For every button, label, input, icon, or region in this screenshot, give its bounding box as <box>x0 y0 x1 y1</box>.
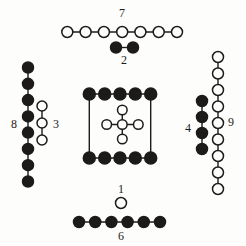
filled-dot-four-right <box>197 112 208 123</box>
filled-dot-eight-left <box>23 111 34 122</box>
hollow-dot-one-bottom <box>116 198 127 209</box>
hollow-dot-nine-right <box>213 68 224 79</box>
hollow-dot-seven-top <box>117 27 128 38</box>
hollow-dot-seven-top <box>153 27 164 38</box>
hollow-dot-five-center-cross <box>118 105 128 115</box>
filled-dot-two-top <box>128 42 139 53</box>
group-six-bottom: 6 <box>74 217 166 244</box>
number-label-two-top: 2 <box>121 53 127 67</box>
filled-dot-ten-center-square <box>99 152 111 164</box>
hetu-svg: 72834916 <box>0 0 246 246</box>
hollow-dot-seven-top <box>172 27 183 38</box>
hollow-dot-five-center-cross <box>118 120 128 130</box>
number-label-four-right: 4 <box>185 121 191 135</box>
group-three-left: 3 <box>37 101 59 145</box>
filled-dot-ten-center-square <box>114 88 126 100</box>
hollow-dot-nine-right <box>213 101 224 112</box>
hollow-dot-five-center-cross <box>102 120 112 130</box>
filled-dot-eight-left <box>23 127 34 138</box>
filled-dot-ten-center-square <box>145 152 157 164</box>
hollow-dot-three-left <box>37 118 47 128</box>
filled-dot-ten-center-square <box>145 88 157 100</box>
filled-dot-ten-center-square <box>83 152 95 164</box>
hollow-dot-nine-right <box>213 85 224 96</box>
filled-dot-ten-center-square <box>83 88 95 100</box>
group-two-top: 2 <box>111 42 139 67</box>
hollow-dot-five-center-cross <box>134 120 144 130</box>
hollow-dot-three-left <box>37 101 47 111</box>
hollow-dot-seven-top <box>62 27 73 38</box>
filled-dot-four-right <box>197 128 208 139</box>
filled-dot-ten-center-square <box>114 152 126 164</box>
filled-dot-two-top <box>111 42 122 53</box>
number-label-six-bottom: 6 <box>118 229 124 243</box>
filled-dot-six-bottom <box>106 217 117 228</box>
filled-dot-six-bottom <box>122 217 133 228</box>
filled-dot-six-bottom <box>90 217 101 228</box>
hollow-dot-five-center-cross <box>118 134 128 144</box>
hollow-dot-nine-right <box>213 184 224 195</box>
hollow-dot-nine-right <box>213 167 224 178</box>
filled-dot-six-bottom <box>155 217 166 228</box>
filled-dot-six-bottom <box>138 217 149 228</box>
filled-dot-six-bottom <box>74 217 85 228</box>
filled-dot-eight-left <box>23 176 34 187</box>
hollow-dot-seven-top <box>98 27 109 38</box>
hollow-dot-nine-right <box>213 118 224 129</box>
filled-dot-eight-left <box>23 95 34 106</box>
filled-dot-eight-left <box>23 160 34 171</box>
filled-dot-eight-left <box>23 143 34 154</box>
group-four-right: 4 <box>185 96 208 155</box>
hollow-dot-seven-top <box>80 27 91 38</box>
hollow-dot-three-left <box>37 135 47 145</box>
group-nine-right: 9 <box>213 52 235 195</box>
group-five-center-cross <box>102 105 143 144</box>
number-label-three-left: 3 <box>53 117 59 131</box>
filled-dot-ten-center-square <box>129 88 141 100</box>
filled-dot-eight-left <box>23 62 34 73</box>
number-label-one-bottom: 1 <box>118 182 124 196</box>
hollow-dot-nine-right <box>213 52 224 63</box>
group-seven-top: 7 <box>62 6 183 38</box>
number-label-eight-left: 8 <box>11 117 17 131</box>
group-eight-left: 8 <box>11 62 34 187</box>
hollow-dot-seven-top <box>135 27 146 38</box>
number-label-seven-top: 7 <box>119 6 125 20</box>
filled-dot-four-right <box>197 144 208 155</box>
group-one-bottom: 1 <box>116 182 127 209</box>
filled-dot-eight-left <box>23 78 34 89</box>
filled-dot-four-right <box>197 96 208 107</box>
hetu-diagram-page: 72834916 <box>0 0 246 246</box>
number-label-nine-right: 9 <box>228 115 234 129</box>
filled-dot-ten-center-square <box>129 152 141 164</box>
filled-dot-ten-center-square <box>99 88 111 100</box>
hollow-dot-nine-right <box>213 151 224 162</box>
hollow-dot-nine-right <box>213 134 224 145</box>
